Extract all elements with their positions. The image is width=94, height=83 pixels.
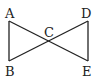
label-c: C: [44, 25, 54, 40]
label-a: A: [4, 6, 15, 21]
label-b: B: [5, 64, 15, 79]
label-e: E: [82, 64, 92, 79]
label-d: D: [81, 6, 91, 21]
geometry-diagram: A D C B E: [0, 0, 94, 83]
